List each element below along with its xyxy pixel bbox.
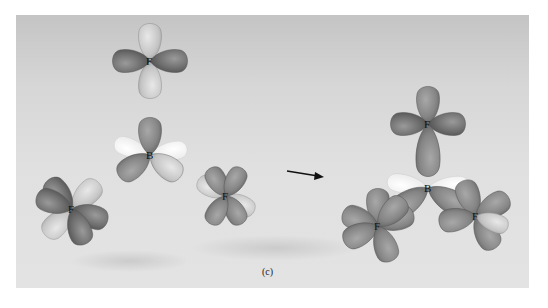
reactant-b-center: B	[112, 118, 189, 186]
reactant-f-bottom-left: F	[33, 173, 111, 248]
atom-label: F	[424, 118, 430, 130]
reaction-arrow	[287, 171, 324, 180]
reactant-f-top: F	[113, 24, 188, 99]
atom-label: B	[146, 149, 153, 161]
product-f-top: F	[391, 87, 466, 177]
atom-label: F	[472, 210, 478, 222]
atom-label: F	[222, 190, 228, 202]
product-bf3: F B F F	[339, 87, 514, 266]
figure-caption: (c)	[262, 266, 273, 277]
atom-label: B	[424, 182, 431, 194]
reactant-f-bottom-right: F	[193, 163, 258, 228]
atom-label: F	[68, 203, 74, 215]
atom-label: F	[374, 220, 380, 232]
orbital-diagram: F B F F	[0, 0, 548, 308]
atom-label: F	[146, 55, 152, 67]
